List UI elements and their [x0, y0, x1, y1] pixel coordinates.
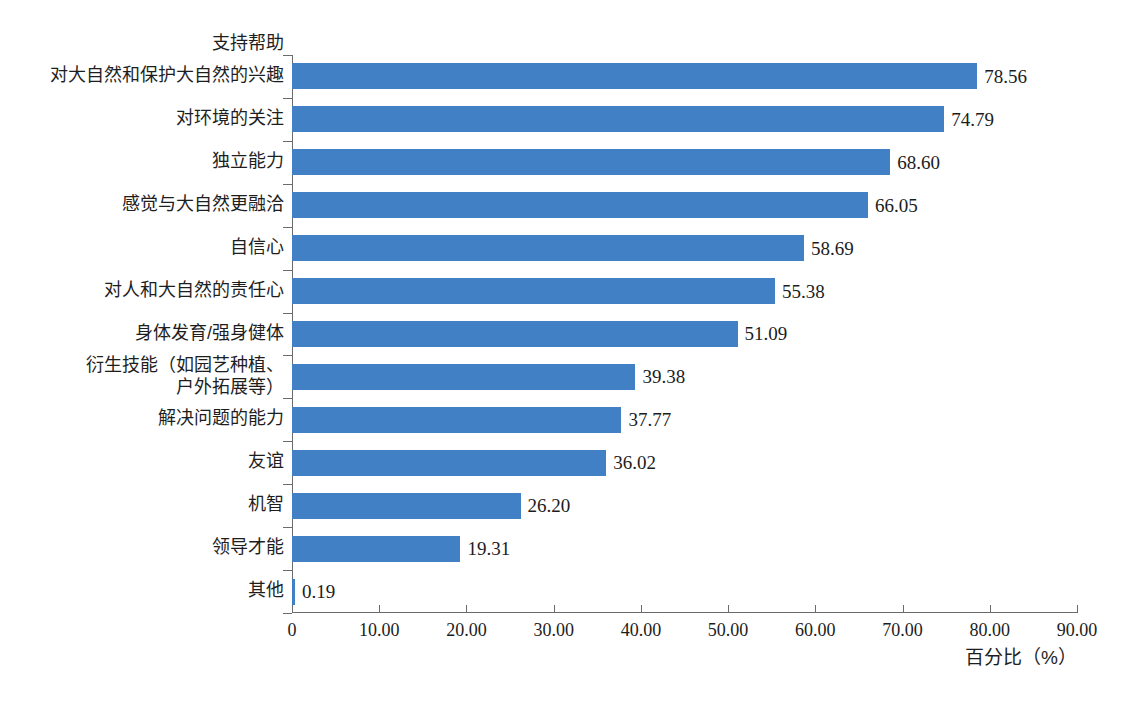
category-label: 对人和大自然的责任心 — [0, 280, 284, 302]
x-axis-tick-label: 70.00 — [882, 620, 923, 641]
y-axis-tick — [283, 270, 292, 271]
bar-value-label: 74.79 — [951, 110, 994, 129]
y-axis-tick — [283, 355, 292, 356]
x-axis-tick — [292, 605, 293, 613]
bar-value-label: 26.20 — [528, 496, 571, 515]
category-label: 身体发育/强身健体 — [0, 323, 284, 345]
x-axis-tick-label: 50.00 — [708, 620, 749, 641]
y-axis-tick — [283, 613, 292, 614]
y-axis-tick — [283, 398, 292, 399]
x-axis-title: 百分比（%） — [965, 642, 1077, 669]
x-axis-tick — [379, 605, 380, 613]
bar-value-label: 66.05 — [875, 196, 918, 215]
y-axis-tick — [283, 184, 292, 185]
bar-row: 37.77 — [292, 398, 671, 441]
bar-row: 55.38 — [292, 270, 825, 313]
bar-row: 36.02 — [292, 441, 656, 484]
x-axis-tick-label: 30.00 — [533, 620, 574, 641]
x-axis-tick — [815, 605, 816, 613]
bar-value-label: 0.19 — [302, 582, 335, 601]
bar-value-label: 37.77 — [628, 410, 671, 429]
bar-value-label: 68.60 — [897, 153, 940, 172]
x-axis-tick — [641, 605, 642, 613]
y-axis-tick — [283, 141, 292, 142]
bar-row: 66.05 — [292, 184, 918, 227]
category-label: 领导才能 — [0, 537, 284, 559]
y-axis-tick — [283, 55, 292, 56]
bar-value-label: 36.02 — [613, 453, 656, 472]
x-axis-tick-label: 10.00 — [359, 620, 400, 641]
x-axis-tick — [554, 605, 555, 613]
y-axis-tick — [283, 98, 292, 99]
x-axis-tick-label: 40.00 — [621, 620, 662, 641]
bar-row: 78.56 — [292, 55, 1027, 98]
bar-row: 51.09 — [292, 313, 787, 356]
y-axis-tick — [283, 441, 292, 442]
x-axis-tick-label: 0 — [288, 620, 297, 641]
x-axis-tick — [903, 605, 904, 613]
category-label: 其他 — [0, 580, 284, 602]
category-label: 机智 — [0, 494, 284, 516]
bar-row: 26.20 — [292, 484, 570, 527]
bar — [292, 192, 868, 218]
bar — [292, 235, 804, 261]
category-label: 友谊 — [0, 451, 284, 473]
category-label: 衍生技能（如园艺种植、 户外拓展等） — [0, 355, 284, 398]
x-axis-tick-label: 90.00 — [1057, 620, 1098, 641]
bar — [292, 407, 621, 433]
x-axis-tick-label: 20.00 — [446, 620, 487, 641]
plot-area: 78.5674.7968.6066.0558.6955.3851.0939.38… — [292, 55, 1077, 613]
bar — [292, 364, 635, 390]
category-label-top: 支持帮助 — [0, 28, 284, 54]
bar-row: 0.19 — [292, 570, 335, 613]
y-axis-tick — [283, 570, 292, 571]
bar — [292, 278, 775, 304]
y-axis-tick — [283, 527, 292, 528]
bar — [292, 450, 606, 476]
x-axis-tick — [1077, 605, 1078, 613]
y-axis-tick — [283, 313, 292, 314]
category-label: 对大自然和保护大自然的兴趣 — [0, 65, 284, 87]
bar-value-label: 51.09 — [745, 324, 788, 343]
bar-row: 58.69 — [292, 227, 854, 270]
category-label: 解决问题的能力 — [0, 408, 284, 430]
bar-value-label: 55.38 — [782, 282, 825, 301]
bar-chart: 支持帮助 78.5674.7968.6066.0558.6955.3851.09… — [0, 0, 1139, 701]
category-label: 对环境的关注 — [0, 108, 284, 130]
bar — [292, 579, 295, 605]
bar — [292, 536, 460, 562]
category-label: 独立能力 — [0, 151, 284, 173]
x-axis-tick — [990, 605, 991, 613]
y-axis-tick — [283, 227, 292, 228]
bar-row: 74.79 — [292, 98, 994, 141]
bar-value-label: 58.69 — [811, 239, 854, 258]
bar-value-label: 39.38 — [642, 367, 685, 386]
y-axis-tick — [283, 484, 292, 485]
bar — [292, 493, 521, 519]
bar — [292, 149, 890, 175]
bar-value-label: 19.31 — [467, 539, 510, 558]
category-label: 感觉与大自然更融洽 — [0, 194, 284, 216]
x-axis-tick — [728, 605, 729, 613]
bar-row: 68.60 — [292, 141, 940, 184]
x-axis-tick-label: 60.00 — [795, 620, 836, 641]
bar-row: 19.31 — [292, 527, 510, 570]
x-axis-tick — [466, 605, 467, 613]
bar — [292, 106, 944, 132]
category-label: 自信心 — [0, 237, 284, 259]
bar-row: 39.38 — [292, 355, 685, 398]
bar — [292, 63, 977, 89]
bar-value-label: 78.56 — [984, 67, 1027, 86]
x-axis-tick-label: 80.00 — [970, 620, 1011, 641]
bar — [292, 321, 738, 347]
